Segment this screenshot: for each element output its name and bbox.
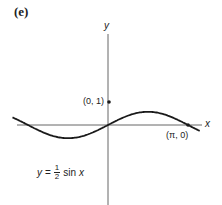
x-axis-label: x [205,118,210,129]
graph-figure: (e) y x (0, 1) (π, 0) y = 1 2 sin x [0,0,222,205]
point-0-1-dot [107,100,111,104]
point-0-1-label: (0, 1) [83,96,104,106]
equation-function: sin [63,167,76,178]
fraction-denominator: 2 [55,173,59,181]
equation-lhs: y [37,167,42,178]
panel-label: (e) [14,4,28,20]
equation-variable: x [79,167,84,178]
y-axis-label: y [104,20,109,31]
point-pi-0-dot [186,123,190,127]
equation-fraction: 1 2 [54,164,60,181]
point-pi-0-label: (π, 0) [166,130,188,140]
equation-equals: = [45,167,51,178]
plot-area [0,0,222,205]
equation-label: y = 1 2 sin x [37,164,84,181]
